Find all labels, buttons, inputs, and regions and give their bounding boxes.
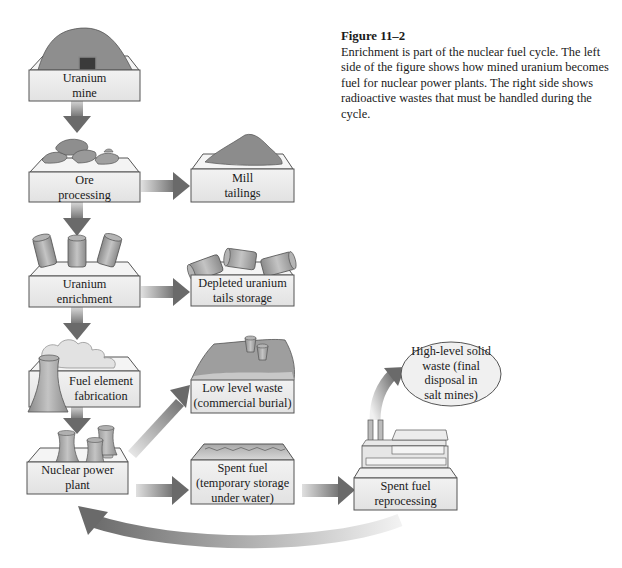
arrow-enrichment-to-depleted (141, 278, 190, 306)
arrow-ore-to-enrichment (63, 202, 91, 236)
label-line: tails storage (191, 291, 294, 306)
label-high-level-waste: High-level solid waste (final disposal i… (401, 344, 501, 402)
label-line: plant (27, 478, 128, 493)
label-line: salt mines) (401, 388, 501, 403)
label-ore-processing: Ore processing (29, 173, 140, 203)
arrow-enrichment-to-fabrication (63, 307, 91, 340)
label-line: disposal in (401, 373, 501, 388)
figure-caption-text: Enrichment is part of the nuclear fuel c… (341, 45, 609, 121)
label-line: Uranium (29, 277, 140, 292)
ore-rocks-icon (42, 139, 119, 164)
label-line: Nuclear power (27, 463, 128, 478)
label-line: Depleted uranium (191, 276, 294, 291)
barrels-upright-icon (32, 232, 123, 268)
label-line: (commercial burial) (191, 396, 294, 411)
label-line: fabrication (62, 389, 140, 404)
label-line: Spent fuel (354, 479, 457, 494)
label-line: Fuel element (62, 374, 140, 389)
factory-icon (362, 420, 448, 468)
label-mill-tailings: Mill tailings (191, 171, 294, 201)
figure-title: Figure 11–2 (341, 29, 621, 45)
arrow-plant-to-spent-fuel (136, 476, 189, 505)
label-line: reprocessing (354, 494, 457, 509)
label-line: Mill (191, 171, 294, 186)
label-uranium-mine: Uranium mine (29, 71, 140, 101)
arrow-ore-to-tailings (141, 172, 190, 200)
label-line: Low level waste (191, 381, 294, 396)
label-line: Spent fuel (191, 461, 294, 476)
arrow-spent-fuel-to-reprocessing (302, 476, 355, 505)
label-line: tailings (191, 186, 294, 201)
label-line: Uranium (29, 71, 140, 86)
arrow-reprocessing-loop-to-plant (78, 506, 400, 542)
label-uranium-enrichment: Uranium enrichment (29, 277, 140, 307)
label-line: mine (29, 86, 140, 101)
label-low-level-waste: Low level waste (commercial burial) (191, 381, 294, 411)
figure-caption: Figure 11–2 Enrichment is part of the nu… (341, 29, 621, 123)
arrow-mine-to-ore (63, 100, 91, 133)
label-line: Ore (29, 173, 140, 188)
label-nuclear-plant: Nuclear power plant (27, 463, 128, 493)
label-line: processing (29, 188, 140, 203)
label-line: High-level solid (401, 344, 501, 359)
label-fuel-fabrication: Fuel element fabrication (62, 374, 140, 404)
label-spent-fuel: Spent fuel (temporary storage under wate… (191, 461, 294, 506)
label-reprocessing: Spent fuel reprocessing (354, 479, 457, 509)
label-line: (temporary storage (191, 476, 294, 491)
tailings-pile-icon (205, 134, 282, 165)
label-line: under water) (191, 491, 294, 506)
label-line: enrichment (29, 292, 140, 307)
label-line: waste (final (401, 359, 501, 374)
label-depleted-tails: Depleted uranium tails storage (191, 276, 294, 306)
